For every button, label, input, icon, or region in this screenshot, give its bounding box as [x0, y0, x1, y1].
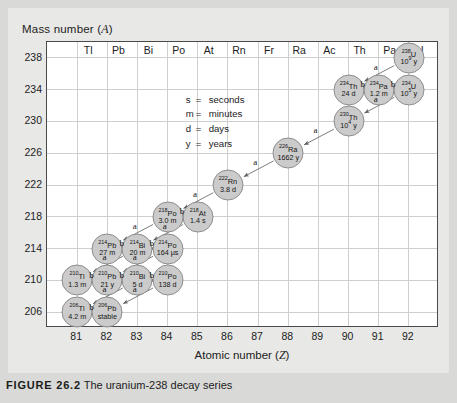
legend-row-m: m=minutes — [186, 107, 245, 122]
decay-label-a: a — [314, 125, 318, 135]
legend-symbol: d — [186, 122, 196, 137]
decay-label-a: a — [374, 62, 378, 72]
legend-equals: = — [196, 122, 209, 137]
nuclide-226ra[interactable]: 226Ra1662 y — [273, 138, 304, 169]
legend-meaning: minutes — [209, 108, 243, 119]
legend-equals: = — [196, 137, 209, 152]
x-axis-title-text: Atomic number (Z) — [195, 349, 290, 361]
x-tick-82: 82 — [100, 330, 112, 342]
legend-meaning: days — [209, 123, 229, 134]
nuclide-234pa[interactable]: 234Pa1.2 m — [363, 74, 394, 105]
nuclide-halflife-label: 3.0 m — [159, 217, 177, 224]
nuclide-210pb[interactable]: 210Pb21 y — [92, 265, 123, 296]
decay-label-b: b — [119, 238, 124, 248]
nuclide-halflife-label: 24 d — [342, 90, 356, 97]
nuclide-234th[interactable]: 234Th24 d — [333, 74, 364, 105]
nuclide-222rn[interactable]: 222Rn3.8 d — [212, 170, 243, 201]
figure-number: FIGURE 26.2 — [6, 379, 81, 391]
decay-label-a: a — [133, 252, 137, 262]
x-tick-81: 81 — [70, 330, 82, 342]
decay-label-a: a — [133, 221, 137, 231]
legend-symbol: y — [186, 137, 196, 152]
x-axis-title: Atomic number (Z) — [46, 348, 438, 363]
plot-area: TlPbBiPoAtRnFrRaAcThPaU 238U109 y234Th24… — [46, 41, 438, 327]
nuclide-halflife-label: 1.3 m — [68, 280, 86, 287]
legend-symbol: m — [186, 107, 196, 122]
nuclide-halflife-label: 109 y — [401, 58, 417, 65]
decay-label-b: b — [89, 302, 94, 312]
legend-row-y: y=years — [186, 137, 245, 152]
x-tick-90: 90 — [342, 330, 354, 342]
x-tick-85: 85 — [191, 330, 203, 342]
decay-label-b: b — [361, 79, 366, 89]
y-tick-214: 214 — [24, 242, 42, 254]
units-legend: s=secondsm=minutesd=daysy=years — [186, 93, 245, 151]
figure-caption: FIGURE 26.2 The uranium-238 decay series — [6, 379, 457, 391]
y-axis-tick-labels: 238234230226222218214210206 — [8, 41, 42, 327]
nuclide-234u[interactable]: 234U105 y — [393, 74, 424, 105]
nuclide-214pb[interactable]: 214Pb27 m — [92, 233, 123, 264]
decay-label-b: b — [150, 238, 155, 248]
y-tick-238: 238 — [24, 51, 42, 63]
y-tick-206: 206 — [24, 305, 42, 317]
decay-label-a: a — [193, 189, 197, 199]
nuclide-halflife-label: 1.2 m — [370, 90, 388, 97]
x-tick-89: 89 — [312, 330, 324, 342]
legend-equals: = — [196, 107, 209, 122]
nuclide-210tl[interactable]: 210Tl1.3 m — [62, 265, 93, 296]
decay-label-a: a — [102, 284, 106, 294]
nuclide-halflife-label: 1.4 s — [190, 217, 206, 224]
nuclide-206tl[interactable]: 206Tl4.2 m — [62, 297, 93, 328]
legend-row-s: s=seconds — [186, 93, 245, 108]
legend-equals: = — [196, 93, 209, 108]
x-tick-92: 92 — [402, 330, 414, 342]
decay-label-b: b — [391, 79, 396, 89]
nuclide-halflife-label: 3.8 d — [220, 185, 236, 192]
y-tick-218: 218 — [24, 210, 42, 222]
nuclide-halflife-label: 164 μs — [157, 249, 179, 256]
nuclide-230th[interactable]: 230Th104 y — [333, 106, 364, 137]
decay-label-a: a — [133, 284, 137, 294]
y-tick-210: 210 — [24, 273, 42, 285]
nuclide-halflife-label: stable — [98, 312, 117, 319]
decay-label-b: b — [150, 270, 155, 280]
nuclide-214bi[interactable]: 214Bi20 m — [122, 233, 153, 264]
x-tick-88: 88 — [281, 330, 293, 342]
x-tick-87: 87 — [251, 330, 263, 342]
decay-label-a: a — [102, 252, 106, 262]
legend-row-d: d=days — [186, 122, 245, 137]
nuclide-218po[interactable]: 218Po3.0 m — [152, 201, 183, 232]
nuclide-206pb[interactable]: 206Pbstable — [92, 297, 123, 328]
y-tick-226: 226 — [24, 146, 42, 158]
figure-caption-text: The uranium-238 decay series — [84, 379, 233, 391]
nuclide-halflife-label: 105 y — [401, 90, 417, 97]
nuclide-218at[interactable]: 218At1.4 s — [182, 201, 213, 232]
decay-label-a: a — [163, 221, 167, 231]
x-tick-86: 86 — [221, 330, 233, 342]
x-tick-91: 91 — [372, 330, 384, 342]
nuclide-halflife-label: 1662 y — [277, 153, 299, 160]
decay-label-b: b — [119, 270, 124, 280]
nuclide-210po[interactable]: 210Po138 d — [152, 265, 183, 296]
legend-symbol: s — [186, 93, 196, 108]
decay-label-b: b — [180, 206, 185, 216]
decay-label-b: b — [89, 270, 94, 280]
x-tick-83: 83 — [131, 330, 143, 342]
nuclide-halflife-label: 138 d — [159, 280, 177, 287]
nuclide-214po[interactable]: 214Po164 μs — [152, 233, 183, 264]
decay-arrow-a — [244, 161, 274, 177]
nuclide-halflife-label: 104 y — [340, 122, 356, 129]
y-axis-title: Mass number (A) — [22, 22, 113, 37]
x-tick-84: 84 — [161, 330, 173, 342]
decay-arrow-a — [304, 129, 334, 145]
x-axis-tick-labels: 818283848586878889909192 — [46, 330, 438, 346]
nuclide-210bi[interactable]: 210Bi5 d — [122, 265, 153, 296]
decay-label-a: a — [253, 157, 257, 167]
nuclide-238u[interactable]: 238U109 y — [393, 42, 424, 73]
y-axis-title-text: Mass number (A) — [22, 23, 113, 35]
decay-label-a: a — [374, 94, 378, 104]
legend-meaning: years — [209, 138, 232, 149]
nuclide-halflife-label: 4.2 m — [68, 312, 86, 319]
legend-meaning: seconds — [209, 94, 245, 105]
y-tick-222: 222 — [24, 178, 42, 190]
